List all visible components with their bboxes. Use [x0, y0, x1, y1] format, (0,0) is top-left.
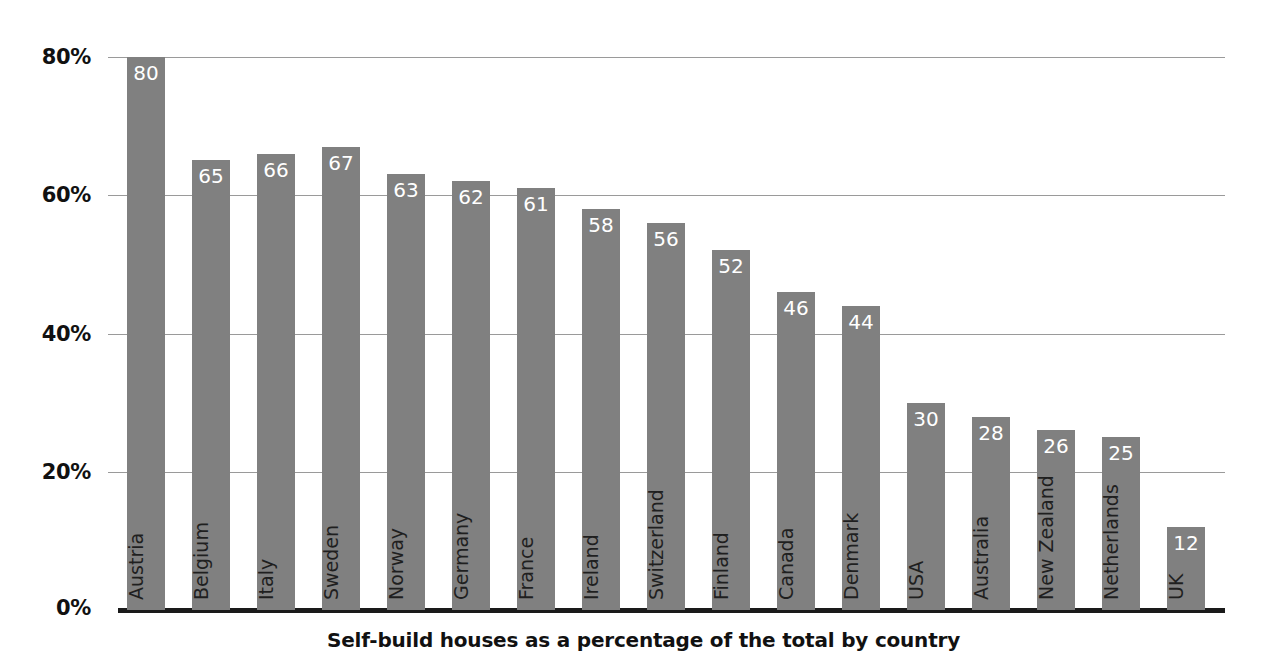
bar-value-label: 52: [712, 256, 750, 276]
gridline-80: [108, 57, 1225, 58]
bar-value-label: 61: [517, 194, 555, 214]
bar-value-label: 25: [1102, 443, 1140, 463]
bar-value-label: 12: [1167, 533, 1205, 553]
bar-category-label: Netherlands: [1102, 484, 1121, 600]
chart-caption: Self-build houses as a percentage of the…: [0, 628, 1287, 652]
bar-value-label: 30: [907, 409, 945, 429]
ytick-label-60: 60%: [0, 183, 91, 207]
bar-value-label: 28: [972, 423, 1010, 443]
bar-category-label: Italy: [257, 559, 276, 600]
bar-usa: 30 USA: [907, 403, 945, 610]
bar-value-label: 80: [127, 63, 165, 83]
bar-category-label: Denmark: [842, 513, 861, 600]
ytick-label-0: 0%: [0, 596, 91, 620]
bar-category-label: Belgium: [192, 522, 211, 600]
bar-category-label: France: [517, 537, 536, 600]
bar-category-label: Switzerland: [647, 489, 666, 600]
bar-value-label: 66: [257, 160, 295, 180]
bar-value-label: 56: [647, 229, 685, 249]
bar-category-label: UK: [1167, 574, 1186, 600]
bar-ireland: 58 Ireland: [582, 209, 620, 610]
bar-netherlands: 25 Netherlands: [1102, 437, 1140, 610]
bar-category-label: Canada: [777, 528, 796, 600]
bar-switzerland: 56 Switzerland: [647, 223, 685, 610]
bar-value-label: 26: [1037, 436, 1075, 456]
bar-france: 61 France: [517, 188, 555, 610]
bar-austria: 80 Austria: [127, 57, 165, 610]
bar-category-label: Sweden: [322, 525, 341, 600]
ytick-label-80: 80%: [0, 45, 91, 69]
bar-category-label: Australia: [972, 516, 991, 600]
bar-finland: 52 Finland: [712, 250, 750, 610]
bar-canada: 46 Canada: [777, 292, 815, 610]
bar-category-label: Austria: [127, 533, 146, 600]
bar-value-label: 46: [777, 298, 815, 318]
ytick-label-40: 40%: [0, 322, 91, 346]
bar-value-label: 63: [387, 180, 425, 200]
bar-value-label: 58: [582, 215, 620, 235]
bar-category-label: Germany: [452, 513, 471, 600]
bar-sweden: 67 Sweden: [322, 147, 360, 610]
bar-italy: 66 Italy: [257, 154, 295, 610]
bar-value-label: 65: [192, 166, 230, 186]
bar-value-label: 44: [842, 312, 880, 332]
bar-norway: 63 Norway: [387, 174, 425, 610]
bar-category-label: Finland: [712, 532, 731, 600]
bar-germany: 62 Germany: [452, 181, 490, 610]
ytick-label-20: 20%: [0, 460, 91, 484]
bar-denmark: 44 Denmark: [842, 306, 880, 610]
bar-category-label: Ireland: [582, 534, 601, 600]
bar-belgium: 65 Belgium: [192, 160, 230, 610]
bar-category-label: New Zealand: [1037, 475, 1056, 600]
bar-uk: 12 UK: [1167, 527, 1205, 610]
bar-category-label: USA: [907, 561, 926, 600]
bar-value-label: 67: [322, 153, 360, 173]
bar-value-label: 62: [452, 187, 490, 207]
bar-new-zealand: 26 New Zealand: [1037, 430, 1075, 610]
bar-category-label: Norway: [387, 528, 406, 600]
bar-chart: 80% 60% 40% 20% 0% 80 Austria 65 Belgium…: [0, 0, 1287, 665]
bar-australia: 28 Australia: [972, 417, 1010, 610]
